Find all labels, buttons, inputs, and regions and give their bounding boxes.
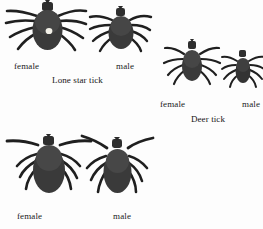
sex-labels-deer: female male: [160, 100, 260, 109]
sex-label-female: female: [160, 100, 185, 109]
species-caption-lone-star: Lone star tick: [0, 76, 155, 85]
sex-labels-third: female male: [17, 212, 131, 221]
tick-group-deer: female male Deer tick: [158, 38, 263, 130]
sex-label-female: female: [17, 212, 42, 221]
sex-label-female: female: [14, 62, 39, 71]
species-caption-deer: Deer tick: [158, 115, 258, 124]
specimen-third-male: [77, 134, 159, 204]
tick-group-third: female male: [5, 132, 165, 229]
sex-label-male: male: [116, 62, 134, 71]
specimen-lone-star-female: [4, 0, 88, 60]
sex-labels-lone-star: female male: [14, 62, 134, 71]
sex-label-male: male: [113, 212, 131, 221]
tick-group-lone-star: female male Lone star tick: [0, 0, 160, 92]
sex-label-male: male: [242, 100, 260, 109]
specimen-deer-female: [162, 38, 222, 92]
tick-comparison-figure: female male Lone star tick: [0, 0, 263, 229]
specimen-deer-male: [220, 48, 263, 92]
specimen-lone-star-male: [87, 6, 153, 60]
